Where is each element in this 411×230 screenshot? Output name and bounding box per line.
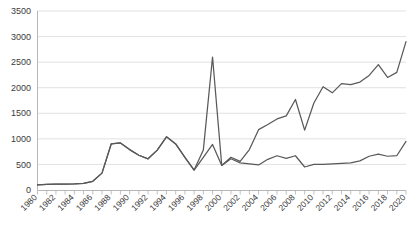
y-axis-tick-labels: 0500100015002000250030003500: [11, 6, 31, 195]
x-axis-tick-label: 2014: [332, 192, 353, 213]
x-axis-tick-label: 1986: [74, 192, 95, 213]
y-axis-tick-label: 1500: [11, 108, 31, 118]
x-axis-tick-label: 2004: [240, 192, 261, 213]
x-axis-tick-labels: 1980198219841986198819901992199419961998…: [18, 192, 407, 213]
chart-container: 0500100015002000250030003500 19801982198…: [0, 0, 411, 230]
y-axis-tick-label: 500: [16, 160, 31, 170]
x-axis-tick-label: 1992: [129, 192, 150, 213]
y-axis-tick-label: 3500: [11, 6, 31, 16]
x-axis-tick-label: 2018: [369, 192, 390, 213]
x-axis-tick-label: 1982: [37, 192, 58, 213]
x-axis-tick-label: 1998: [184, 192, 205, 213]
y-axis-tick-label: 3000: [11, 32, 31, 42]
x-axis-tick-label: 1984: [55, 192, 76, 213]
x-axis-tick-label: 1980: [18, 192, 39, 213]
y-axis-tick-label: 2500: [11, 57, 31, 67]
gridlines: [38, 11, 407, 164]
x-axis-tick-label: 2012: [313, 192, 334, 213]
line-chart: 0500100015002000250030003500 19801982198…: [0, 0, 411, 230]
x-axis-tick-label: 2000: [203, 192, 224, 213]
x-axis-tick-label: 2006: [258, 192, 279, 213]
x-axis-ticks: [38, 191, 407, 195]
x-axis-tick-label: 1988: [92, 192, 113, 213]
x-axis-tick-label: 1994: [147, 192, 168, 213]
x-axis-tick-label: 2008: [276, 192, 297, 213]
x-axis-tick-label: 2016: [350, 192, 371, 213]
x-axis-tick-label: 1990: [111, 192, 132, 213]
y-axis-tick-label: 1000: [11, 134, 31, 144]
x-axis-tick-label: 2010: [295, 192, 316, 213]
x-axis-tick-label: 1996: [166, 192, 187, 213]
x-axis-tick-label: 2020: [387, 192, 408, 213]
y-axis-tick-label: 2000: [11, 83, 31, 93]
x-axis-tick-label: 2002: [221, 192, 242, 213]
